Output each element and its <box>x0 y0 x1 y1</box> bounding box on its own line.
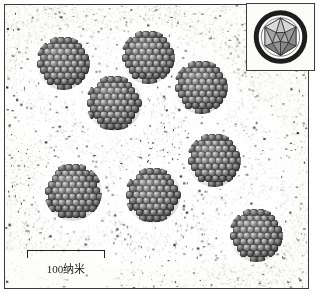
nanoparticle-bead <box>160 215 167 222</box>
nanoparticle-bead <box>149 78 156 84</box>
nanoparticle-bead <box>64 84 71 90</box>
scale-bar-label: 100纳米 <box>27 260 105 276</box>
nanoparticle-bead <box>215 181 222 187</box>
nanoparticle-cluster <box>44 163 102 221</box>
nanoparticle-bead <box>121 123 128 130</box>
nanoparticle-bead <box>160 72 167 79</box>
nanoparticle-bead <box>213 102 220 109</box>
nanoparticle-bead <box>87 111 94 118</box>
icosahedron-icon <box>247 4 314 70</box>
nanoparticle-bead <box>257 256 264 262</box>
nanoparticle-bead <box>202 108 209 114</box>
nanoparticle-cluster <box>86 75 142 131</box>
icosahedron-inset-panel <box>246 3 315 71</box>
nanoparticle-bead <box>89 205 96 212</box>
nanoparticle-cluster <box>36 36 90 90</box>
nanoparticle-bead <box>268 250 275 257</box>
nanoparticle-bead <box>75 78 82 85</box>
nanoparticle-bead <box>226 175 233 182</box>
nanoparticle-bead <box>126 203 133 210</box>
nanoparticle-cluster <box>125 167 181 223</box>
scale-bar <box>27 250 105 258</box>
micrograph-figure: 100纳米 <box>0 0 317 304</box>
nanoparticle-cluster <box>174 60 228 114</box>
nanoparticle-bead <box>79 211 86 218</box>
nanoparticle-cluster <box>121 30 175 84</box>
nanoparticle-cluster <box>229 208 283 262</box>
nanoparticle-cluster <box>187 133 241 187</box>
